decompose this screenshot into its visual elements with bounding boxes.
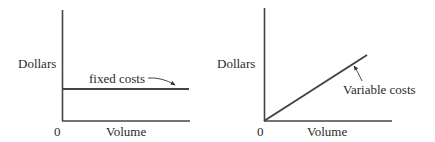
- fixed-costs-annotation: fixed costs: [89, 71, 145, 86]
- x-axis-label: Volume: [307, 124, 347, 139]
- variable-costs-arrow: [354, 66, 362, 81]
- cost-diagrams: Dollars Volume 0 fixed costs Dollars Vol…: [0, 0, 435, 142]
- variable-costs-annotation: Variable costs: [343, 82, 416, 97]
- origin-label: 0: [257, 124, 264, 139]
- variable-costs-chart: Dollars Volume 0 Variable costs: [217, 8, 416, 139]
- x-axis-label: Volume: [106, 124, 146, 139]
- origin-label: 0: [54, 124, 61, 139]
- y-axis-label: Dollars: [18, 56, 56, 71]
- fixed-costs-arrow: [148, 78, 175, 85]
- fixed-costs-chart: Dollars Volume 0 fixed costs: [18, 10, 190, 139]
- y-axis-label: Dollars: [217, 56, 255, 71]
